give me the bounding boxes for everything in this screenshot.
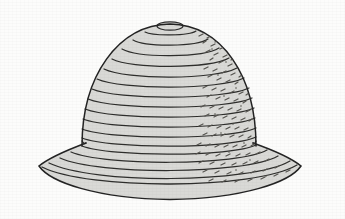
hat-illustration: [0, 0, 345, 219]
crown-top-knob: [157, 22, 183, 30]
illustration-canvas: [0, 0, 345, 219]
